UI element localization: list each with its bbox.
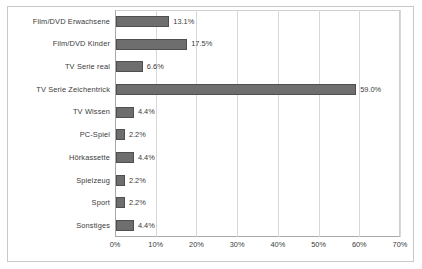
- bar: [116, 39, 187, 50]
- bar: [116, 175, 125, 186]
- bar-with-value: 13.1%: [116, 16, 194, 27]
- bar-with-value: 4.4%: [116, 107, 155, 118]
- category-label: PC-Spiel: [0, 131, 110, 138]
- category-label: Hörkassette: [0, 154, 110, 161]
- bar-value-label: 2.2%: [129, 177, 146, 184]
- x-axis-tick-labels: 0%10%20%30%40%50%60%70%: [0, 241, 422, 255]
- bar-chart: Film/DVD Erwachsene13.1%Film/DVD Kinder1…: [0, 0, 422, 269]
- bar: [116, 61, 143, 72]
- category-label: Spielzeug: [0, 177, 110, 184]
- bar: [116, 84, 356, 95]
- bar-with-value: 4.4%: [116, 152, 155, 163]
- bar-with-value: 2.2%: [116, 197, 146, 208]
- bar: [116, 220, 134, 231]
- bar-value-label: 6.6%: [147, 63, 164, 70]
- x-tick-label: 40%: [270, 241, 285, 248]
- category-label: Film/DVD Erwachsene: [0, 18, 110, 25]
- x-tick-label: 70%: [393, 241, 408, 248]
- bar-with-value: 6.6%: [116, 61, 164, 72]
- bar: [116, 197, 125, 208]
- category-label: Sport: [0, 199, 110, 206]
- x-tick-label: 60%: [352, 241, 367, 248]
- bar-value-label: 13.1%: [173, 18, 194, 25]
- bar: [116, 107, 134, 118]
- x-tick-label: 0%: [110, 241, 121, 248]
- bar-value-label: 4.4%: [138, 154, 155, 161]
- bar-with-value: 2.2%: [116, 175, 146, 186]
- bar-value-label: 4.4%: [138, 108, 155, 115]
- category-label: TV Serie real: [0, 63, 110, 70]
- bar: [116, 152, 134, 163]
- bar-row: Hörkassette4.4%: [0, 146, 422, 169]
- bar-row: TV Wissen4.4%: [0, 101, 422, 124]
- bar-rows: Film/DVD Erwachsene13.1%Film/DVD Kinder1…: [0, 10, 422, 237]
- bar-row: Film/DVD Kinder17.5%: [0, 33, 422, 56]
- bar-row: TV Serie Zeichentrick59.0%: [0, 78, 422, 101]
- bar-row: PC-Spiel2.2%: [0, 124, 422, 147]
- bar-value-label: 2.2%: [129, 131, 146, 138]
- x-tick-label: 50%: [311, 241, 326, 248]
- bar-row: Sport2.2%: [0, 192, 422, 215]
- bar-value-label: 59.0%: [360, 86, 381, 93]
- bar: [116, 16, 169, 27]
- bar-value-label: 17.5%: [191, 40, 212, 47]
- category-label: Film/DVD Kinder: [0, 40, 110, 47]
- bar-value-label: 2.2%: [129, 199, 146, 206]
- bar-row: Sonstiges4.4%: [0, 214, 422, 237]
- bar: [116, 129, 125, 140]
- bar-value-label: 4.4%: [138, 222, 155, 229]
- bar-with-value: 2.2%: [116, 129, 146, 140]
- bar-with-value: 59.0%: [116, 84, 381, 95]
- bar-row: TV Serie real6.6%: [0, 55, 422, 78]
- bar-row: Film/DVD Erwachsene13.1%: [0, 10, 422, 33]
- x-tick-label: 20%: [189, 241, 204, 248]
- x-tick-label: 30%: [230, 241, 245, 248]
- category-label: Sonstiges: [0, 222, 110, 229]
- category-label: TV Serie Zeichentrick: [0, 86, 110, 93]
- x-tick-label: 10%: [148, 241, 163, 248]
- category-label: TV Wissen: [0, 108, 110, 115]
- bar-row: Spielzeug2.2%: [0, 169, 422, 192]
- bar-with-value: 17.5%: [116, 39, 212, 50]
- bar-with-value: 4.4%: [116, 220, 155, 231]
